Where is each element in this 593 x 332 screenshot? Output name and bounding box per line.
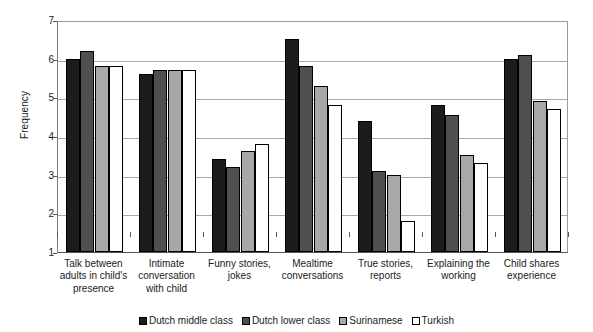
x-axis-tick-mark (349, 232, 350, 237)
x-category-label: Child sharesexperience (495, 258, 568, 283)
chart-legend: Dutch middle classDutch lower classSurin… (0, 314, 593, 328)
x-category-label: Talk betweenadults in child'spresence (57, 258, 130, 295)
bar (533, 101, 547, 252)
plot-area (57, 21, 568, 253)
y-tick-label-2: 2 (40, 209, 54, 219)
legend-item: Surinamese (339, 316, 402, 326)
x-category-label-line: Funny stories, (203, 258, 276, 270)
bar (153, 70, 167, 252)
bar (109, 66, 123, 252)
bar-group (58, 22, 131, 252)
x-category-label: Funny stories,jokes (203, 258, 276, 283)
bar (358, 121, 372, 252)
x-category-label-line: conversation (130, 270, 203, 282)
legend-item: Dutch middle class (139, 316, 233, 326)
y-tick-label-3: 3 (40, 171, 54, 181)
y-tick-mark-6 (53, 60, 57, 61)
bar-group (204, 22, 277, 252)
y-tick-label-1: 1 (40, 248, 54, 258)
legend-item: Dutch lower class (242, 316, 330, 326)
x-category-label-line: jokes (203, 270, 276, 282)
x-category-label: Mealtimeconversations (276, 258, 349, 283)
bar-group (131, 22, 204, 252)
bar (328, 105, 342, 252)
legend-label: Surinamese (349, 316, 402, 326)
bar (241, 151, 255, 252)
x-category-label: Explaining theworking (422, 258, 495, 283)
x-axis-tick-mark (130, 232, 131, 237)
legend-label: Dutch lower class (252, 316, 330, 326)
bar (226, 167, 240, 252)
x-category-label-line: working (422, 270, 495, 282)
bar-group (277, 22, 350, 252)
x-axis-tick-mark (57, 232, 58, 237)
x-category-label-line: reports (349, 270, 422, 282)
bar (168, 70, 182, 252)
bar (372, 171, 386, 252)
y-tick-mark-2 (53, 214, 57, 215)
x-axis-tick-mark (276, 232, 277, 237)
bar (80, 51, 94, 252)
bar (401, 221, 415, 252)
y-tick-mark-1 (53, 253, 57, 254)
y-tick-mark-5 (53, 98, 57, 99)
y-tick-label-4: 4 (40, 132, 54, 142)
bar (504, 59, 518, 252)
bar (285, 39, 299, 252)
bar (547, 109, 561, 252)
bar (255, 144, 269, 252)
x-axis-tick-mark (422, 232, 423, 237)
x-category-label-line: conversations (276, 270, 349, 282)
bar (66, 59, 80, 252)
x-category-label-line: True stories, (349, 258, 422, 270)
x-category-label: True stories,reports (349, 258, 422, 283)
bar-chart-figure: Frequency 1234567 Talk betweenadults in … (0, 0, 593, 332)
x-axis-tick-mark (495, 232, 496, 237)
bar-group (350, 22, 423, 252)
x-category-label-line: Explaining the (422, 258, 495, 270)
legend-item: Turkish (412, 316, 454, 326)
x-category-label-line: Talk between (57, 258, 130, 270)
bar (182, 70, 196, 252)
x-category-label-line: Intimate (130, 258, 203, 270)
legend-swatch-icon (412, 317, 420, 325)
bar (387, 175, 401, 252)
y-axis-title: Frequency (20, 70, 30, 160)
bar (518, 55, 532, 252)
x-axis-tick-mark (203, 232, 204, 237)
bar (212, 159, 226, 252)
bar (299, 66, 313, 252)
bar (445, 115, 459, 252)
x-category-label-line: presence (57, 283, 130, 295)
x-category-label-line: with child (130, 283, 203, 295)
y-tick-label-6: 6 (40, 55, 54, 65)
x-axis-tick-mark (568, 232, 569, 237)
y-tick-mark-7 (53, 21, 57, 22)
legend-label: Dutch middle class (149, 316, 233, 326)
y-tick-mark-3 (53, 176, 57, 177)
legend-label: Turkish (422, 316, 454, 326)
x-category-label-line: Child shares (495, 258, 568, 270)
bar (314, 86, 328, 252)
y-axis-tick-labels: 1234567 (36, 0, 54, 332)
legend-swatch-icon (242, 317, 250, 325)
x-category-label: Intimateconversationwith child (130, 258, 203, 295)
bar (431, 105, 445, 252)
x-category-label-line: experience (495, 270, 568, 282)
legend-swatch-icon (139, 317, 147, 325)
bar (139, 74, 153, 252)
legend-swatch-icon (339, 317, 347, 325)
bar-group (423, 22, 496, 252)
x-category-label-line: Mealtime (276, 258, 349, 270)
x-category-label-line: adults in child's (57, 270, 130, 282)
bar-group (496, 22, 569, 252)
y-tick-label-7: 7 (40, 16, 54, 26)
x-axis-tick-labels: Talk betweenadults in child'spresenceInt… (57, 258, 568, 302)
y-tick-label-5: 5 (40, 93, 54, 103)
bar (460, 155, 474, 252)
y-tick-mark-4 (53, 137, 57, 138)
bar (95, 66, 109, 252)
bar (474, 163, 488, 252)
